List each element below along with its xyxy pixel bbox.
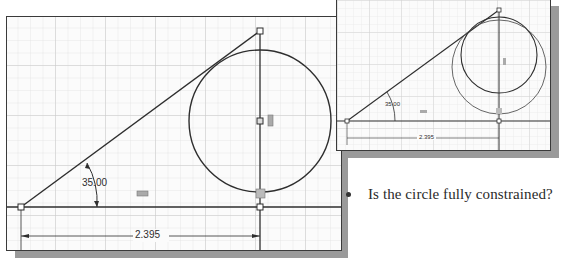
tangent-constraint-icon	[256, 189, 265, 198]
question-bullet-item: Is the circle fully constrained?	[346, 186, 553, 203]
inset-linear-dimension-label: 2.395	[417, 134, 436, 140]
question-text: Is the circle fully constrained?	[368, 186, 553, 203]
main-sketch-canvas	[7, 17, 341, 250]
circle-center-point	[257, 118, 263, 124]
inset-angle-dimension-label: 35.00	[385, 101, 400, 107]
main-panel-shadow	[15, 250, 348, 258]
horizontal-constraint-icon	[137, 191, 148, 196]
main-sketch-panel: 35.00 2.395	[6, 16, 342, 251]
vertical-constraint-icon	[268, 115, 273, 126]
inset-sketch-panel: << 35.00 2.395	[336, 0, 551, 151]
angle-dimension-label[interactable]: 35.00	[82, 177, 107, 188]
endpoint-left	[18, 204, 24, 210]
endpoint-bottom	[257, 204, 263, 210]
inset-panel-shadow-right	[550, 6, 559, 158]
endpoint-top	[257, 28, 263, 34]
linear-dimension-label[interactable]: 2.395	[135, 229, 160, 240]
inset-panel-shadow-bottom	[345, 150, 559, 158]
bullet-icon	[346, 192, 351, 197]
inset-sketch-canvas: <<	[337, 0, 550, 150]
